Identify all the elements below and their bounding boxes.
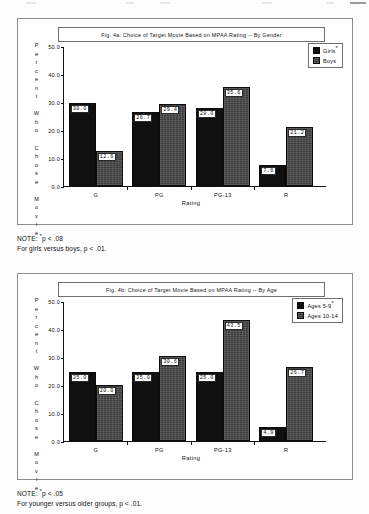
y-letter: r [36,58,38,67]
note-line-2: For younger versus older groups, p < .01… [17,499,142,509]
y-letter: o [35,203,38,212]
note-value: p < .08 [42,235,63,242]
bar-value: 25.0 [71,374,89,382]
y-letter: i [36,475,37,484]
bar-value: 29.4 [161,106,179,114]
y-tick: 40.0 [48,72,63,78]
bar-ages-10-14-pg13[interactable]: 43.5 [223,320,250,441]
note-line-1: NOTE: *p < .05 [17,489,142,499]
bar-girls-pg[interactable]: 26.7 [132,112,159,186]
bar-boys-pg13[interactable]: 35.6 [223,87,250,186]
y-tick: 0.0 [52,184,63,190]
y-letter: h [35,118,38,127]
y-letter: o [35,458,38,467]
bar-boys-pg[interactable]: 29.4 [159,104,186,186]
y-letter: o [35,161,38,170]
note-prefix: NOTE: [17,490,38,497]
y-letter: P [35,41,39,50]
figure-4b: Fig. 4b: Choice of Target Movie Based on… [17,273,353,480]
bar-ages-5-9-r[interactable]: 4.9 [259,427,286,441]
y-letter: t [36,347,38,356]
y-letter: c [35,67,38,76]
x-tick-pg: PG [128,442,192,453]
bar-girls-g[interactable]: 30.0 [69,103,96,186]
figure-4b-x-axis-title: Rating [64,455,318,461]
bar-ages-5-9-g[interactable]: 25.0 [69,372,96,442]
y-letter: W [34,364,39,373]
bar-ages-10-14-r[interactable]: 26.7 [286,367,313,441]
x-tick-pg13: PG-13 [191,187,255,198]
bar-group-r: 4.9 26.7 [255,302,319,441]
note-value: p < .05 [42,490,63,497]
x-tick-g: G [64,442,128,453]
note-line-1: NOTE: *p < .08 [17,234,107,244]
bar-boys-g[interactable]: 12.6 [96,151,123,186]
y-tick: 50.0 [48,299,63,305]
y-tick: 30.0 [48,100,63,106]
scan-artifact [0,0,369,14]
figure-4b-y-axis-title: P e r c e n t W h o C h o s e M o v [32,296,41,493]
y-tick: 10.0 [48,156,63,162]
figure-4a-title: Fig. 4a: Choice of Target Movie Based on… [58,27,325,42]
bar-value: 25.0 [134,374,152,382]
bar-value: 21.2 [288,129,306,137]
y-letter: v [35,467,38,476]
y-letter: C [34,144,38,153]
x-tick-g: G [64,187,128,198]
y-letter: e [35,178,38,187]
y-letter: o [35,381,38,390]
y-letter: n [35,84,38,93]
figure-4a-bars: 30.0 12.6 26.7 29.4 28.0 [64,47,318,186]
note-line-2: For girls versus boys, p < .01. [17,244,107,254]
y-letter: h [35,152,38,161]
y-tick: 20.0 [48,383,63,389]
figure-4a-x-ticks: G PG PG-13 R [64,187,318,198]
y-tick: 20.0 [48,128,63,134]
figure-4a-x-axis-title: Rating [64,200,318,206]
y-letter: r [36,313,38,322]
y-tick: 10.0 [48,411,63,417]
y-letter: s [35,169,38,178]
bar-group-g: 25.0 20.0 [64,302,128,441]
legend-label-girls: Girls* [323,48,338,54]
y-letter: n [35,339,38,348]
bar-value: 12.6 [98,153,116,161]
x-tick-pg13: PG-13 [191,442,255,453]
bar-group-pg: 26.7 29.4 [128,47,192,186]
bar-value: 25.0 [198,374,216,382]
bar-ages-5-9-pg[interactable]: 25.0 [132,372,159,442]
bar-value: 43.5 [225,322,243,330]
x-tick-r: R [255,442,319,453]
y-letter: e [35,305,38,314]
y-tick: 40.0 [48,327,63,333]
legend-label-boys: Boys [323,58,336,64]
y-letter: h [35,373,38,382]
bar-ages-10-14-pg[interactable]: 30.6 [159,356,186,441]
bar-boys-r[interactable]: 21.2 [286,127,313,186]
y-letter: M [34,450,39,459]
y-letter: e [35,50,38,59]
figure-4a-plot: P e r c e n t W h o C h o s e M o v [63,47,318,187]
y-letter: C [34,399,38,408]
y-letter: t [36,92,38,101]
y-tick: 50.0 [48,44,63,50]
x-tick-pg: PG [128,187,192,198]
figure-4b-note: NOTE: *p < .05 For younger versus older … [17,489,142,508]
y-letter: e [35,433,38,442]
bar-value: 26.7 [288,369,306,377]
figure-4b-title: Fig. 4b: Choice of Target Movie Based on… [58,282,325,297]
y-letter: W [34,109,39,118]
legend-star-ages-5-9: * [331,300,333,306]
x-tick-r: R [255,187,319,198]
bar-value: 26.7 [134,114,152,122]
figure-4b-plot: P e r c e n t W h o C h o s e M o v [63,302,318,442]
bar-ages-5-9-pg13[interactable]: 25.0 [196,372,223,442]
bar-value: 30.0 [71,105,89,113]
y-letter: P [35,296,39,305]
bar-girls-r[interactable]: 7.6 [259,165,286,186]
bar-value: 7.6 [261,167,276,175]
figure-4a: Fig. 4a: Choice of Target Movie Based on… [17,18,353,225]
bar-ages-10-14-g[interactable]: 20.0 [96,385,123,441]
bar-girls-pg13[interactable]: 28.0 [196,108,223,186]
y-letter: e [35,330,38,339]
